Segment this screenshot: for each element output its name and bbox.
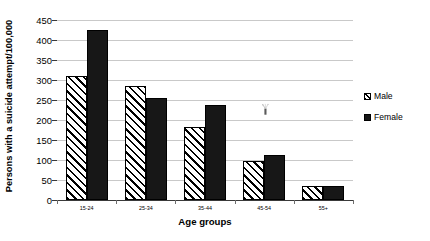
- legend-item-male: Male: [364, 88, 430, 104]
- y-axis-tick-label: 200: [24, 116, 52, 125]
- solid-black-swatch-icon: [364, 114, 371, 121]
- y-axis-tick-label: 350: [24, 56, 52, 65]
- y-axis-tick-label: 0: [24, 196, 52, 205]
- hatched-diagonal-swatch-icon: [364, 93, 371, 100]
- y-axis-tick-mark: [52, 80, 57, 81]
- suicide-attempt-bar-chart: Persons with a suicide attempt/100,000 0…: [0, 0, 430, 241]
- x-axis-tick-label: 25-34: [116, 205, 176, 212]
- y-axis-tick-mark: [52, 120, 57, 121]
- bar-male-45-54[interactable]: [243, 161, 264, 200]
- bar-group: [66, 20, 108, 200]
- bar-male-35-44[interactable]: [184, 127, 205, 200]
- y-axis-tick-label: 400: [24, 36, 52, 45]
- bar-female-25-34[interactable]: [146, 98, 167, 200]
- bars-layer: [57, 20, 353, 200]
- y-axis-tick-label: 250: [24, 96, 52, 105]
- x-axis-tick-mark: [294, 200, 295, 204]
- legend-label-female: Female: [374, 112, 403, 122]
- y-axis-tick-label: 300: [24, 76, 52, 85]
- y-axis-tick-mark: [52, 140, 57, 141]
- y-axis-tick-label: 50: [24, 176, 52, 185]
- y-axis-tick-mark: [52, 100, 57, 101]
- bar-male-15-24[interactable]: [66, 76, 87, 200]
- bar-group: [125, 20, 167, 200]
- bar-female-35-44[interactable]: [205, 105, 226, 200]
- bar-male-55+[interactable]: [302, 186, 323, 200]
- x-axis-tick-mark: [353, 200, 354, 204]
- bar-female-45-54[interactable]: [264, 155, 285, 200]
- y-axis-tick-mark: [52, 180, 57, 181]
- y-axis-tick-label: 100: [24, 156, 52, 165]
- chart-legend: Male Female: [364, 88, 430, 130]
- y-axis-tick-labels: 050100150200250300350400450: [16, 0, 52, 241]
- x-axis-tick-mark: [235, 200, 236, 204]
- x-axis-title: Age groups: [57, 216, 353, 227]
- x-axis-tick-label: 15-24: [57, 205, 117, 212]
- bar-female-15-24[interactable]: [87, 30, 108, 200]
- y-axis-tick-mark: [52, 60, 57, 61]
- x-axis-tick-mark: [57, 200, 58, 204]
- bar-group: [302, 20, 344, 200]
- y-axis-tick-mark: [52, 160, 57, 161]
- bar-female-55+[interactable]: [323, 186, 344, 200]
- x-axis-tick-label: 55+: [293, 205, 353, 212]
- legend-item-female: Female: [364, 109, 430, 125]
- scan-artifact-speck: [261, 103, 270, 116]
- y-axis-title-text: Persons with a suicide attempt/100,000: [2, 8, 16, 204]
- x-axis-tick-label: 35-44: [175, 205, 235, 212]
- x-axis-tick-label: 45-54: [234, 205, 294, 212]
- legend-label-male: Male: [374, 91, 393, 101]
- y-axis-tick-label: 450: [24, 16, 52, 25]
- plot-area: [57, 20, 353, 200]
- gridline: [57, 200, 353, 201]
- bar-male-25-34[interactable]: [125, 86, 146, 200]
- x-axis-tick-mark: [175, 200, 176, 204]
- y-axis-tick-label: 150: [24, 136, 52, 145]
- x-axis-tick-mark: [116, 200, 117, 204]
- bar-group: [184, 20, 226, 200]
- y-axis-tick-mark: [52, 40, 57, 41]
- y-axis-tick-mark: [52, 20, 57, 21]
